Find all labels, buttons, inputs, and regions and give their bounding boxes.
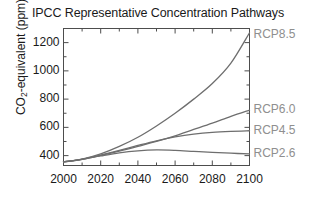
y-tick-label: 1200	[33, 35, 60, 49]
x-tick-label: 2100	[220, 172, 280, 186]
plot-frame	[64, 29, 250, 166]
y-tick-label: 1000	[33, 63, 60, 77]
y-tick-label: 600	[39, 119, 59, 133]
y-tick-label: 800	[39, 91, 59, 105]
series-label-rcp6.0: RCP6.0	[254, 102, 296, 116]
series-label-rcp2.6: RCP2.6	[254, 146, 296, 160]
y-tick-label: 400	[39, 148, 59, 162]
series-label-rcp8.5: RCP8.5	[254, 27, 296, 41]
series-label-rcp4.5: RCP4.5	[254, 123, 296, 137]
chart-figure: IPCC Representative Concentration Pathwa…	[0, 0, 316, 198]
